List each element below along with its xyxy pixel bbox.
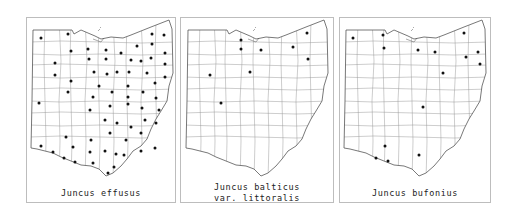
occurrence-dot xyxy=(384,145,387,148)
occurrence-dot xyxy=(164,76,167,79)
occurrence-dot xyxy=(158,109,161,112)
occurrence-dot xyxy=(164,52,167,55)
occurrence-dot xyxy=(434,51,437,54)
map-panel-juncus-effusus: Juncus effusus xyxy=(26,17,176,203)
occurrence-dot xyxy=(67,91,70,94)
occurrence-dot xyxy=(249,71,252,74)
map-panel-juncus-balticus: Juncus balticus var. littoralis xyxy=(180,17,334,203)
occurrence-dot xyxy=(40,145,43,148)
occurrence-dot xyxy=(52,151,55,154)
occurrence-dot xyxy=(352,37,355,40)
occurrence-dot xyxy=(463,32,466,35)
occurrence-dot xyxy=(292,46,295,49)
occurrence-dot xyxy=(240,48,243,51)
occurrence-dot xyxy=(260,49,263,52)
occurrence-dot xyxy=(375,157,378,160)
occurrence-dot xyxy=(418,154,421,157)
occurrence-dot xyxy=(154,147,157,150)
occurrence-dot xyxy=(87,48,90,51)
occurrence-dot xyxy=(154,82,157,85)
occurrence-dot xyxy=(144,119,147,122)
map-caption-balticus: Juncus balticus var. littoralis xyxy=(181,182,333,204)
occurrence-dot xyxy=(92,96,95,99)
occurrence-dot xyxy=(209,74,212,77)
ohio-map-balticus xyxy=(181,18,335,204)
occurrence-dot xyxy=(155,122,158,125)
occurrence-dot xyxy=(127,103,130,106)
occurrence-dot xyxy=(120,52,123,55)
occurrence-dot xyxy=(383,47,386,50)
occurrence-dot xyxy=(155,97,158,100)
map-caption-bufonius: Juncus bufonius xyxy=(340,188,490,199)
occurrence-dot xyxy=(306,32,309,35)
occurrence-dot xyxy=(92,162,95,165)
occurrence-dot xyxy=(141,107,144,110)
occurrence-dot xyxy=(130,59,133,62)
occurrence-dot xyxy=(70,50,73,53)
map-panel-juncus-bufonius: Juncus bufonius xyxy=(339,17,491,203)
occurrence-dot xyxy=(140,60,143,63)
occurrence-dot xyxy=(38,102,41,105)
occurrence-dot xyxy=(89,151,92,154)
occurrence-dot xyxy=(151,33,154,36)
occurrence-dot xyxy=(116,71,119,74)
occurrence-dot xyxy=(93,71,96,74)
occurrence-dot xyxy=(125,139,128,142)
occurrence-dot xyxy=(307,58,310,61)
occurrence-dot xyxy=(140,132,143,135)
occurrence-dot xyxy=(142,91,145,94)
occurrence-dot xyxy=(98,85,101,88)
occurrence-dot xyxy=(140,150,143,153)
occurrence-dot xyxy=(113,166,116,169)
occurrence-dot xyxy=(123,154,126,157)
occurrence-dot xyxy=(72,146,75,149)
occurrence-dot xyxy=(146,72,149,75)
occurrence-dot xyxy=(127,96,130,99)
occurrence-dot xyxy=(105,49,108,52)
occurrence-dot xyxy=(136,45,139,48)
occurrence-dot xyxy=(127,85,130,88)
map-caption-effusus: Juncus effusus xyxy=(27,188,175,199)
occurrence-dot xyxy=(67,33,70,36)
occurrence-dot xyxy=(104,150,107,153)
occurrence-dot xyxy=(116,122,119,125)
occurrence-dot xyxy=(70,80,73,83)
occurrence-dot xyxy=(109,105,112,108)
occurrence-dot xyxy=(163,34,166,37)
occurrence-dot xyxy=(40,37,43,40)
occurrence-dot xyxy=(105,58,108,61)
occurrence-dot xyxy=(54,62,57,65)
occurrence-dot xyxy=(164,63,167,66)
occurrence-dot xyxy=(150,57,153,60)
occurrence-dot xyxy=(151,43,154,46)
occurrence-dot xyxy=(240,39,243,42)
occurrence-dot xyxy=(477,51,480,54)
occurrence-dot xyxy=(63,157,66,160)
occurrence-dot xyxy=(89,109,92,112)
occurrence-dot xyxy=(111,91,114,94)
occurrence-dot xyxy=(422,106,425,109)
occurrence-dot xyxy=(130,126,133,129)
occurrence-dot xyxy=(128,71,131,74)
occurrence-dot xyxy=(109,132,112,135)
occurrence-dot xyxy=(104,119,107,122)
occurrence-dot xyxy=(107,172,110,175)
ohio-map-bufonius xyxy=(340,18,492,204)
occurrence-dot xyxy=(106,73,109,76)
occurrence-dot xyxy=(88,58,91,61)
occurrence-dot xyxy=(220,102,223,105)
occurrence-dot xyxy=(442,72,445,75)
occurrence-dot xyxy=(65,136,68,139)
occurrence-dot xyxy=(387,160,390,163)
occurrence-dot xyxy=(54,74,57,77)
occurrence-dot xyxy=(74,161,77,164)
occurrence-dot xyxy=(115,153,118,156)
occurrence-dot xyxy=(382,34,385,37)
occurrence-dot xyxy=(417,49,420,52)
occurrence-dot xyxy=(479,63,482,66)
occurrence-dot xyxy=(465,56,468,59)
ohio-map-effusus xyxy=(27,18,177,204)
occurrence-dot xyxy=(90,139,93,142)
